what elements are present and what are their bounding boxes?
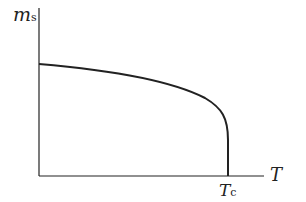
tc-tick-sub: c [230, 186, 236, 199]
x-axis-label: T [270, 164, 282, 185]
chart-canvas [0, 0, 306, 202]
y-axis-label-main: m [13, 3, 31, 25]
tc-tick-main: T [219, 180, 230, 200]
x-axis-label-text: T [270, 164, 282, 185]
y-axis-label-sub: s [31, 11, 37, 24]
magnetization-curve [39, 64, 228, 176]
y-axis-label: ms [13, 3, 37, 25]
tc-tick-label: Tc [219, 180, 237, 200]
